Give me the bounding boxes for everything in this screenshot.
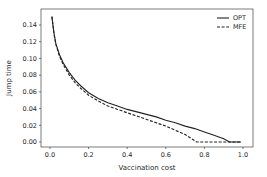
y-tick-label: 0.02 (23, 122, 37, 130)
y-axis-label: Jump time (5, 60, 13, 97)
legend: OPTMFE (217, 14, 246, 31)
y-tick-label: 0.14 (23, 21, 37, 29)
y-tick-label: 0.08 (23, 71, 37, 79)
x-tick-label: 0.2 (83, 151, 93, 159)
series-mfe-line (52, 17, 241, 142)
x-tick-label: 0.0 (45, 151, 55, 159)
y-tick-label: 0.12 (23, 38, 37, 46)
x-tick-label: 0.6 (161, 151, 171, 159)
y-tick-label: 0.06 (23, 88, 37, 96)
y-tick-label: 0.00 (23, 138, 37, 146)
x-tick-label: 1.0 (238, 151, 248, 159)
x-tick-label: 0.8 (199, 151, 209, 159)
legend-mfe-label: MFE (233, 23, 246, 31)
x-axis-label: Vaccination cost (118, 164, 175, 172)
x-axis-ticks: 0.00.20.40.60.81.0 (45, 147, 248, 159)
y-tick-label: 0.04 (23, 105, 37, 113)
line-chart: 0.000.020.040.060.080.100.120.14 0.00.20… (0, 0, 267, 177)
series-lines (52, 17, 241, 142)
y-tick-label: 0.10 (23, 55, 37, 63)
x-tick-label: 0.4 (122, 151, 132, 159)
y-axis-ticks: 0.000.020.040.060.080.100.120.14 (23, 21, 41, 146)
legend-opt-label: OPT (233, 14, 246, 22)
series-opt-line (52, 17, 241, 142)
